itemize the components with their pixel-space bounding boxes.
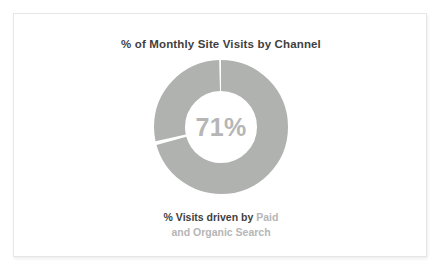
chart-title: % of Monthly Site Visits by Channel bbox=[14, 37, 428, 51]
chart-caption: % Visits driven by Paid and Organic Sear… bbox=[14, 210, 428, 240]
donut-center-value: 71% bbox=[153, 59, 289, 195]
caption-line-1: % Visits driven by Paid bbox=[14, 210, 428, 225]
caption-line-2: and Organic Search bbox=[14, 225, 428, 240]
caption-muted-text-paid: Paid bbox=[256, 211, 278, 223]
chart-card: % of Monthly Site Visits by Channel 71% … bbox=[13, 13, 427, 257]
screenshot-root: % of Monthly Site Visits by Channel 71% … bbox=[0, 0, 441, 272]
caption-strong-text: % Visits driven by bbox=[164, 211, 254, 223]
donut-chart: 71% bbox=[153, 59, 289, 195]
